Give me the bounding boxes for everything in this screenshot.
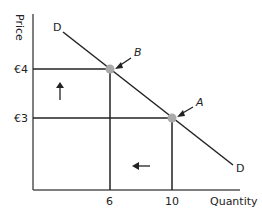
diagram-canvas: Price €4 €3 6 10 Quantity D D B A bbox=[0, 0, 262, 217]
demand-label-bottom: D bbox=[236, 162, 244, 175]
x-axis-label: Quantity bbox=[210, 195, 258, 208]
demand-label-top: D bbox=[53, 21, 61, 34]
point-b-label: B bbox=[134, 46, 142, 59]
demand-curve bbox=[63, 32, 233, 165]
left-arrow-icon bbox=[132, 162, 139, 170]
point-a-label: A bbox=[195, 96, 204, 109]
x-tick-6: 6 bbox=[106, 195, 113, 208]
y-tick-3: €3 bbox=[14, 112, 28, 125]
b-pointer-arrowhead-icon bbox=[115, 62, 123, 69]
point-a bbox=[168, 114, 177, 123]
demand-diagram: Price €4 €3 6 10 Quantity D D B A bbox=[0, 0, 262, 217]
point-b bbox=[106, 65, 115, 74]
y-tick-4: €4 bbox=[14, 63, 28, 76]
y-axis-label: Price bbox=[13, 14, 26, 41]
up-arrow-icon bbox=[56, 82, 64, 88]
x-tick-10: 10 bbox=[165, 195, 179, 208]
a-pointer-arrowhead-icon bbox=[177, 110, 185, 117]
